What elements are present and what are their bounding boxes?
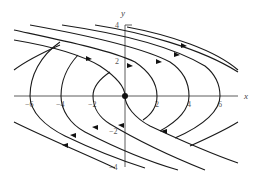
arrow-icon [70, 133, 76, 138]
y-tick-2: 2 [115, 57, 119, 66]
trajectory-top-4 [14, 30, 157, 96]
trajectory-right-4-lower [160, 96, 189, 131]
trajectory-left-outer-upper [14, 45, 60, 70]
equilibrium-point [122, 93, 128, 99]
trajectory-top-0 [127, 27, 238, 70]
arrow-icon [62, 143, 68, 148]
trajectory-right-outer-lower [190, 122, 238, 146]
phase-portrait-canvas: x y −6 −4 −2 2 4 6 4 2 −2 −4 [0, 0, 263, 179]
x-axis-label: x [243, 91, 248, 101]
trajectory-right-6-lower [175, 96, 220, 138]
y-axis-label: y [120, 8, 125, 18]
arrow-icon [127, 63, 133, 68]
arrow-icon [92, 125, 98, 130]
arrow-icon [118, 123, 124, 128]
phase-portrait-figure: x y −6 −4 −2 2 4 6 4 2 −2 −4 [0, 0, 263, 179]
y-tick-neg2: −2 [109, 127, 118, 136]
trajectory-left-4 [61, 55, 178, 170]
arrow-icon [156, 59, 162, 64]
